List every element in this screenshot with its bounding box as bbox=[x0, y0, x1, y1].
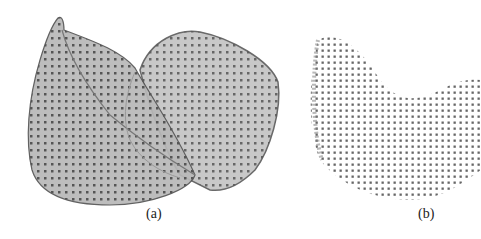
point-cloud-surface-rendering bbox=[0, 0, 300, 239]
point-cloud-rendering bbox=[290, 0, 481, 239]
figure-panel-a: (a) bbox=[0, 0, 300, 239]
caption-b: (b) bbox=[418, 206, 434, 222]
figure-panel-b bbox=[290, 0, 481, 239]
caption-a: (a) bbox=[146, 206, 162, 222]
